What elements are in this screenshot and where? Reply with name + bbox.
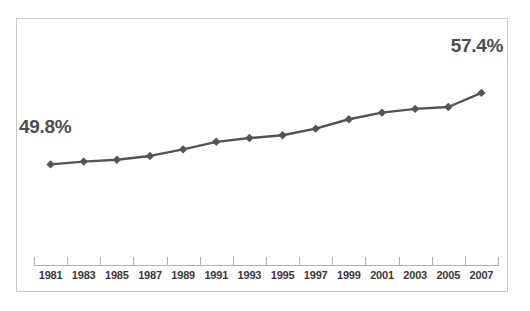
x-axis-label-1991: 1991: [204, 269, 228, 281]
x-axis-tick: [34, 257, 35, 266]
x-axis: [34, 257, 498, 267]
x-axis-tick-labels: 1981198319851987198919911993199519971999…: [34, 269, 498, 287]
x-axis-tick: [167, 257, 168, 266]
x-axis-label-1981: 1981: [39, 269, 63, 281]
x-axis-label-1995: 1995: [271, 269, 295, 281]
x-axis-tick: [465, 257, 466, 266]
x-axis-label-2005: 2005: [436, 269, 460, 281]
x-axis-label-1989: 1989: [171, 269, 195, 281]
data-point-marker-1981: [46, 160, 54, 168]
x-axis-tick: [299, 257, 300, 266]
data-point-marker-1993: [245, 134, 253, 142]
plot-area: [17, 19, 509, 293]
data-point-marker-1983: [80, 157, 88, 165]
x-axis-label-1993: 1993: [238, 269, 262, 281]
line-series: [17, 19, 509, 293]
data-point-marker-2007: [477, 89, 485, 97]
data-point-marker-2001: [378, 108, 386, 116]
data-point-marker-1997: [312, 124, 320, 132]
first-point-value-label: 49.8%: [19, 116, 71, 138]
x-axis-tick: [100, 257, 101, 266]
data-point-marker-1999: [345, 115, 353, 123]
x-axis-label-1987: 1987: [138, 269, 162, 281]
x-axis-tick: [133, 257, 134, 266]
data-point-marker-1985: [113, 156, 121, 164]
x-axis-tick: [67, 257, 68, 266]
data-point-marker-1991: [212, 138, 220, 146]
x-axis-label-1999: 1999: [337, 269, 361, 281]
data-point-marker-2005: [444, 103, 452, 111]
chart-frame: 49.8% 57.4% 1981198319851987198919911993…: [16, 18, 508, 292]
data-point-marker-1989: [179, 145, 187, 153]
data-point-marker-2003: [411, 105, 419, 113]
data-point-marker-1995: [278, 131, 286, 139]
x-axis-label-2003: 2003: [403, 269, 427, 281]
x-axis-tick: [365, 257, 366, 266]
x-axis-label-1983: 1983: [72, 269, 96, 281]
x-axis-label-1985: 1985: [105, 269, 129, 281]
x-axis-tick: [200, 257, 201, 266]
x-axis-label-1997: 1997: [304, 269, 328, 281]
x-axis-tick: [498, 257, 499, 266]
x-axis-tick: [233, 257, 234, 266]
data-point-marker-1987: [146, 152, 154, 160]
x-axis-tick: [399, 257, 400, 266]
last-point-value-label: 57.4%: [451, 35, 503, 57]
x-axis-label-2007: 2007: [470, 269, 494, 281]
x-axis-tick: [266, 257, 267, 266]
x-axis-tick: [432, 257, 433, 266]
series-line: [51, 93, 482, 165]
x-axis-tick: [332, 257, 333, 266]
x-axis-label-2001: 2001: [370, 269, 394, 281]
